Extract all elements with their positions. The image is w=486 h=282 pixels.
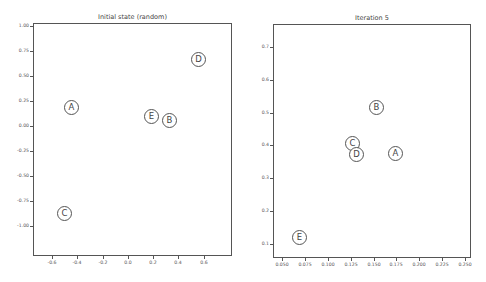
right-ytick: 0.7 — [245, 44, 269, 49]
right-xtick: 0.100 — [316, 262, 340, 267]
left-ytick-mark — [30, 201, 33, 202]
left-xtick: 0.0 — [116, 260, 140, 265]
right-xtick: 0.075 — [293, 262, 317, 267]
left-ytick-mark — [30, 101, 33, 102]
right-ytick-mark — [270, 113, 273, 114]
left-xtick-mark — [103, 256, 104, 259]
right-xtick-mark — [282, 258, 283, 261]
right-ytick-mark — [270, 145, 273, 146]
right-xtick: 0.175 — [384, 262, 408, 267]
left-xtick: 0.4 — [166, 260, 190, 265]
left-node-a: A — [64, 100, 79, 115]
right-chart-title: Iteration 5 — [273, 14, 471, 22]
right-node-d: D — [349, 147, 364, 162]
right-xtick: 0.150 — [362, 262, 386, 267]
left-node-d: D — [191, 52, 206, 67]
left-xtick-mark — [77, 256, 78, 259]
right-ytick: 0.5 — [245, 110, 269, 115]
left-xtick: 0.2 — [141, 260, 165, 265]
left-xtick-mark — [52, 256, 53, 259]
left-ytick: -0.75 — [5, 198, 29, 203]
left-xtick: 0.6 — [192, 260, 216, 265]
right-ytick: 0.1 — [245, 241, 269, 246]
left-ytick-mark — [30, 126, 33, 127]
left-xtick-mark — [204, 256, 205, 259]
right-ytick-mark — [270, 80, 273, 81]
right-xtick-mark — [465, 258, 466, 261]
right-ytick-mark — [270, 178, 273, 179]
left-ytick: 0.25 — [5, 98, 29, 103]
left-chart-title: Initial state (random) — [33, 13, 232, 21]
left-xtick: -0.2 — [91, 260, 115, 265]
right-xtick-mark — [374, 258, 375, 261]
left-xtick-mark — [128, 256, 129, 259]
left-node-e: E — [144, 109, 159, 124]
left-xtick-mark — [178, 256, 179, 259]
left-ytick: -1.00 — [5, 223, 29, 228]
right-xtick: 0.225 — [430, 262, 454, 267]
right-plot-area — [273, 24, 471, 258]
right-node-b: B — [369, 100, 384, 115]
left-ytick-mark — [30, 176, 33, 177]
right-ytick: 0.6 — [245, 77, 269, 82]
left-node-c: C — [57, 206, 72, 221]
left-ytick: -0.50 — [5, 173, 29, 178]
right-ytick-mark — [270, 47, 273, 48]
left-ytick-mark — [30, 26, 33, 27]
right-ytick: 0.2 — [245, 208, 269, 213]
right-xtick: 0.250 — [453, 262, 477, 267]
right-node-e: E — [292, 230, 307, 245]
left-xtick-mark — [153, 256, 154, 259]
right-xtick-mark — [396, 258, 397, 261]
left-ytick-mark — [30, 76, 33, 77]
right-xtick: 0.125 — [339, 262, 363, 267]
right-xtick-mark — [328, 258, 329, 261]
left-ytick: 0.75 — [5, 48, 29, 53]
left-ytick-mark — [30, 51, 33, 52]
right-xtick: 0.050 — [270, 262, 294, 267]
right-xtick-mark — [419, 258, 420, 261]
left-ytick: 1.00 — [5, 23, 29, 28]
right-xtick-mark — [442, 258, 443, 261]
left-ytick: 0.00 — [5, 123, 29, 128]
left-ytick: -0.25 — [5, 148, 29, 153]
right-ytick: 0.4 — [245, 142, 269, 147]
left-xtick: -0.4 — [65, 260, 89, 265]
right-ytick-mark — [270, 211, 273, 212]
right-xtick: 0.200 — [407, 262, 431, 267]
right-ytick: 0.3 — [245, 175, 269, 180]
left-ytick: 0.50 — [5, 73, 29, 78]
right-xtick-mark — [351, 258, 352, 261]
left-xtick: -0.6 — [40, 260, 64, 265]
right-node-a: A — [388, 146, 403, 161]
right-ytick-mark — [270, 244, 273, 245]
left-ytick-mark — [30, 151, 33, 152]
right-xtick-mark — [305, 258, 306, 261]
left-node-b: B — [162, 113, 177, 128]
left-ytick-mark — [30, 226, 33, 227]
